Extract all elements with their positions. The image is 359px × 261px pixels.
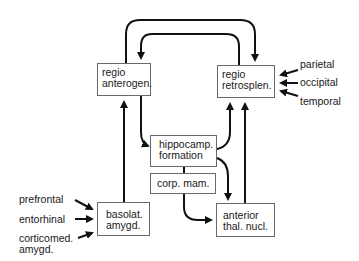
input-label-corticomed-amygd: corticomed. amygd.: [19, 233, 73, 255]
arrow-anterogen-to-retrosplen: [126, 20, 255, 63]
node-label-line2: formation: [159, 150, 212, 161]
node-basolat-amygd: basolat. amygd.: [97, 202, 150, 236]
node-label-line2: amygd.: [106, 220, 145, 231]
node-label-line1: corp. mam.: [157, 178, 211, 189]
node-label-line2: retrosplen.: [222, 80, 270, 91]
diagram-canvas: regio anterogen. regio retrosplen. hippo…: [0, 0, 359, 261]
node-label-line2: anterogen.: [102, 78, 146, 89]
arrow-anterogen-to-hippocamp: [141, 96, 148, 146]
input-label-prefrontal: prefrontal: [19, 194, 63, 205]
arrow-hippocamp-to-thal: [217, 158, 228, 199]
node-anterior-thal-nucl: anterior thal. nucl.: [216, 203, 275, 237]
arrow-retrosplen-to-anterogen: [141, 34, 239, 65]
input-label-temporal: temporal: [300, 96, 341, 107]
node-label-line2: thal. nucl.: [223, 221, 270, 232]
arrow-corpmam-to-thal: [184, 194, 211, 220]
node-regio-anterogen: regio anterogen.: [97, 63, 151, 96]
node-corp-mam: corp. mam.: [150, 173, 216, 194]
arrow-temporal: [281, 91, 298, 96]
input-label-entorhinal: entorhinal: [19, 214, 65, 225]
node-hippocamp-formation: hippocamp. formation: [150, 135, 217, 167]
arrow-parietal: [281, 70, 298, 75]
arrow-corticomed: [78, 233, 92, 238]
arrow-hippocamp-to-retrosplen: [217, 104, 230, 149]
input-label-line2: amygd.: [19, 244, 73, 255]
arrow-prefrontal: [75, 200, 92, 209]
node-regio-retrosplen: regio retrosplen.: [217, 65, 275, 98]
input-label-parietal: parietal: [300, 59, 334, 70]
input-label-occipital: occipital: [300, 77, 338, 88]
